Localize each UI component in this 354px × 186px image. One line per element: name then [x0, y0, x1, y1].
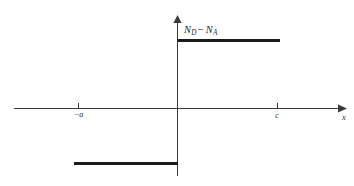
- tick-label-minus-a: −a: [68, 111, 90, 119]
- series-label-subscript-2: A: [213, 29, 217, 37]
- series-label-operator: −: [197, 24, 206, 35]
- figure-container: ND−NA −a c x: [0, 0, 354, 186]
- y-axis-arrow-icon: [173, 15, 181, 23]
- tick-label-a-symbol: a: [79, 110, 83, 119]
- plot-canvas: [0, 0, 354, 186]
- tick-label-c: c: [268, 112, 286, 120]
- series-label-subscript-1: D: [191, 29, 196, 37]
- x-axis-label: x: [342, 113, 346, 122]
- series-label-symbol-2: N: [206, 24, 213, 35]
- series-label: ND−NA: [184, 25, 217, 36]
